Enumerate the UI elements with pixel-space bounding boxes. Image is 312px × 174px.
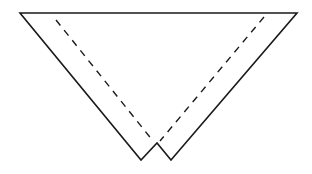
- triangle-outline: [20, 13, 297, 160]
- left-fold-line: [56, 20, 153, 141]
- fold-diagram: [0, 0, 312, 174]
- right-fold-line: [160, 17, 264, 141]
- diagram-canvas: [0, 0, 312, 174]
